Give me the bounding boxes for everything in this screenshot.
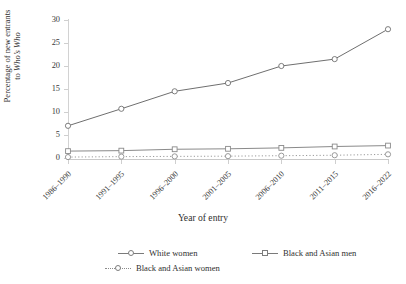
y-tick-label-20: 20 xyxy=(38,62,60,70)
x-tick-mark-3 xyxy=(228,160,229,164)
series-2-point-3 xyxy=(225,154,230,159)
series-line-0 xyxy=(68,29,388,126)
x-tick-label-6: 2016–2022 xyxy=(353,169,393,209)
x-tick-label-2: 1996–2000 xyxy=(140,169,180,209)
series-0-point-3 xyxy=(225,80,230,85)
x-tick-mark-2 xyxy=(175,160,176,164)
plot-area xyxy=(68,20,388,158)
y-tick-label-0: 0 xyxy=(38,154,60,162)
chart-figure: Percentage of new entrants to Who’s Who … xyxy=(0,0,406,284)
x-tick-mark-4 xyxy=(281,160,282,164)
series-1-point-2 xyxy=(172,147,177,152)
x-tick-mark-6 xyxy=(388,160,389,164)
x-tick-label-3: 2001–2005 xyxy=(193,169,233,209)
series-0-point-0 xyxy=(65,123,70,128)
legend-key-line-square-icon xyxy=(252,248,278,258)
series-1-point-5 xyxy=(332,144,337,149)
series-1-point-4 xyxy=(279,145,284,150)
series-2-point-0 xyxy=(65,154,70,159)
x-tick-label-0: 1986–1990 xyxy=(33,169,73,209)
series-2-point-5 xyxy=(332,153,337,158)
chart-legend: White women Black and Asian men Black an… xyxy=(0,246,406,280)
series-0-point-4 xyxy=(279,63,284,68)
legend-key-dotted-circle-icon xyxy=(105,263,131,273)
series-1-point-1 xyxy=(119,148,124,153)
y-tick-label-30: 30 xyxy=(38,16,60,24)
y-axis-title-prefix: to xyxy=(12,71,22,80)
y-axis-title-line-1: Percentage of new entrants xyxy=(3,0,13,126)
legend-label-black-asian-men: Black and Asian men xyxy=(283,248,356,258)
series-1-point-6 xyxy=(386,143,391,148)
y-axis-title: Percentage of new entrants to Who’s Who xyxy=(3,0,43,126)
x-tick-label-1: 1991–1995 xyxy=(86,169,126,209)
series-0-point-1 xyxy=(119,106,124,111)
series-layer xyxy=(68,20,388,158)
series-0-point-2 xyxy=(172,89,177,94)
y-tick-label-15: 15 xyxy=(38,85,60,93)
series-0-point-6 xyxy=(385,27,390,32)
x-tick-label-4: 2006–2010 xyxy=(246,169,286,209)
legend-item-white-women: White women xyxy=(118,248,197,258)
y-axis-title-line-2: to Who’s Who xyxy=(13,0,23,126)
legend-label-white-women: White women xyxy=(149,248,197,258)
series-1-point-0 xyxy=(66,149,71,154)
series-0-point-5 xyxy=(332,57,337,62)
x-tick-mark-0 xyxy=(68,160,69,164)
x-axis-title: Year of entry xyxy=(0,212,406,223)
series-1-point-3 xyxy=(226,146,231,151)
y-tick-label-10: 10 xyxy=(38,108,60,116)
y-axis-title-italic: Who’s Who xyxy=(12,32,22,71)
series-2-point-2 xyxy=(172,154,177,159)
y-tick-label-25: 25 xyxy=(38,39,60,47)
x-tick-mark-1 xyxy=(121,160,122,164)
legend-label-black-asian-women: Black and Asian women xyxy=(136,263,220,273)
legend-item-black-asian-men: Black and Asian men xyxy=(252,248,356,258)
x-tick-label-5: 2011–2015 xyxy=(300,169,340,209)
y-tick-label-5: 5 xyxy=(38,131,60,139)
legend-item-black-asian-women: Black and Asian women xyxy=(105,263,220,273)
series-2-point-1 xyxy=(119,154,124,159)
legend-key-line-circle-icon xyxy=(118,248,144,258)
series-2-point-6 xyxy=(385,152,390,157)
x-tick-mark-5 xyxy=(335,160,336,164)
series-2-point-4 xyxy=(279,153,284,158)
